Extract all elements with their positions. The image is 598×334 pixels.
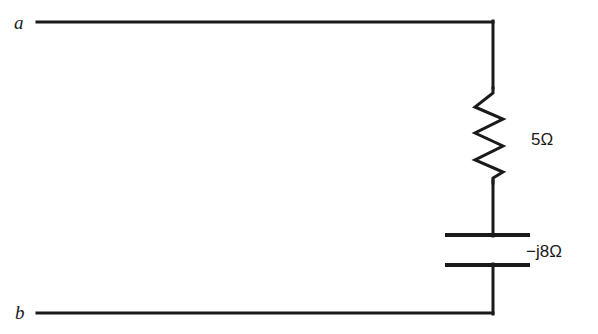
terminal-label-a: a (14, 13, 24, 32)
terminal-label-b: b (15, 303, 25, 322)
circuit-schematic (0, 0, 598, 334)
resistor-value-label: 5Ω (531, 131, 553, 148)
resistor-zigzag-icon (475, 88, 503, 183)
capacitor-value-label: −j8Ω (526, 243, 562, 260)
circuit-diagram-canvas: a b 5Ω −j8Ω (0, 0, 598, 334)
